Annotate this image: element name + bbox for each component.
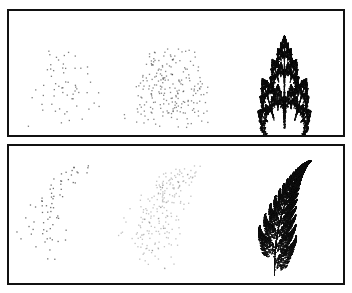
fern-fractal-panel: [7, 144, 345, 285]
tree-fractal-canvas: [9, 11, 343, 135]
fern-fractal-canvas: [9, 146, 343, 283]
tree-fractal-panel: [7, 9, 345, 137]
